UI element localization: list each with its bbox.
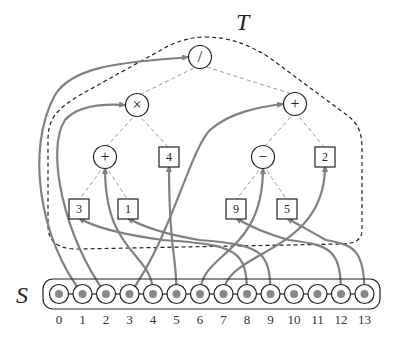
node-label: 9 [233,202,239,216]
node-label: × [132,96,141,113]
sequence-label: S [16,282,28,308]
mapping-arrow [128,218,271,294]
sequence-node: 11 [308,285,327,328]
operator-node: + [94,146,117,169]
tree-edge [137,113,169,148]
leaf-node: 9 [226,199,246,219]
leaf-node: 4 [159,147,179,167]
sequence-node: 0 [50,285,69,328]
sequence-index: 4 [150,312,157,327]
sequence-index: 12 [335,312,348,327]
sequence-index: 0 [56,312,63,327]
tree-edges [79,65,325,200]
node-label: 1 [125,202,131,216]
leaf-node: 5 [277,199,297,219]
mapping-arrow [169,166,177,294]
sequence-index: 2 [103,312,110,327]
operator-node: / [189,46,212,69]
sequence-nodes: 012345678910111213 [50,285,375,328]
mapping-arrow [57,105,125,294]
sequence-node: 8 [238,285,257,328]
leaf-node: 2 [315,147,335,167]
node-label: + [290,95,299,112]
sequence-node: 3 [120,285,139,328]
tree-edge [295,112,325,148]
tree-nodes: /×++4−23195 [69,46,335,220]
sequence-node: 10 [285,285,304,328]
sequence-index: 5 [173,312,180,327]
tree-label: T [236,9,251,35]
node-label: − [258,148,267,165]
sequence-index: 11 [311,312,324,327]
operator-node: − [252,146,275,169]
operator-node: × [126,94,149,117]
sequence-node: 5 [167,285,186,328]
node-label: 5 [284,202,290,216]
tree-edge [79,165,105,200]
sequence-index: 9 [267,312,274,327]
sequence-index: 3 [126,312,133,327]
sequence-node: 7 [214,285,233,328]
sequence-node: 4 [144,285,163,328]
node-label: / [198,48,203,65]
sequence-node: 6 [191,285,210,328]
node-label: 3 [76,202,82,216]
tree-edge [200,65,295,95]
tree-sequence-diagram: T S /×++4−23195 012345678910111213 [0,0,397,344]
tree-edge [263,112,295,148]
leaf-node: 3 [69,199,89,219]
sequence-index: 10 [288,312,301,327]
sequence-index: 1 [79,312,86,327]
sequence-node: 12 [332,285,351,328]
sequence-index: 8 [244,312,251,327]
operator-node: + [284,93,307,116]
sequence-node: 13 [355,285,374,328]
tree-edge [105,113,137,148]
tree-edge [236,165,263,200]
tree-edge [263,165,287,200]
tree-edge [105,165,128,200]
node-label: 2 [322,150,328,164]
sequence-index: 7 [220,312,227,327]
sequence-index: 6 [197,312,204,327]
node-label: 4 [166,150,172,164]
sequence-index: 13 [358,312,371,327]
sequence-node: 9 [261,285,280,328]
mapping-arrow [39,57,188,294]
node-label: + [100,148,109,165]
mapping-arrow [236,218,341,294]
sequence-node: 2 [97,285,116,328]
leaf-node: 1 [118,199,138,219]
sequence-node: 1 [73,285,92,328]
tree-edge [137,65,200,96]
